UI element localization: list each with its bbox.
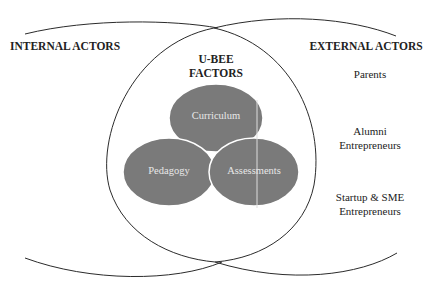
internal-actors-ellipse-bottom: [25, 258, 222, 277]
external-item-label: Startup & SME: [320, 190, 420, 204]
external-actors-title: EXTERNAL ACTORS: [308, 40, 424, 52]
assessments-label: Assessments: [214, 165, 294, 176]
external-item-alumni: Alumni Entrepreneurs: [330, 124, 410, 152]
external-item-startup: Startup & SME Entrepreneurs: [320, 190, 420, 218]
external-actors-ellipse-bottom: [215, 253, 397, 275]
external-item-label: Alumni: [330, 124, 410, 138]
u-bee-diagram: INTERNAL ACTORS U-BEE FACTORS EXTERNAL A…: [0, 0, 429, 294]
u-bee-title-line1: U-BEE: [186, 52, 246, 66]
pedagogy-label: Pedagogy: [129, 165, 209, 176]
internal-actors-title: INTERNAL ACTORS: [10, 40, 120, 52]
external-item-parents: Parents: [330, 67, 410, 81]
u-bee-title-line2: FACTORS: [186, 66, 246, 80]
curriculum-label: Curriculum: [176, 110, 256, 121]
external-item-label: Entrepreneurs: [330, 138, 410, 152]
u-bee-factors-title: U-BEE FACTORS: [186, 52, 246, 80]
external-item-label: Entrepreneurs: [320, 204, 420, 218]
external-item-label: Parents: [330, 67, 410, 81]
internal-actors-ellipse: [25, 22, 218, 34]
external-actors-ellipse: [214, 19, 396, 36]
